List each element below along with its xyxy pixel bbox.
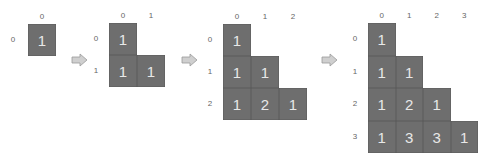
cell-value: 1 [423,96,451,113]
triangle-cell: 3 [423,121,451,154]
right-arrow-icon [321,53,339,67]
cell-value: 2 [251,96,279,113]
row-label: 1 [205,67,215,77]
cell-value: 1 [368,128,396,145]
triangle-cell: 1 [368,23,396,56]
triangle-cell: 1 [368,56,396,89]
triangle-cell: 2 [396,88,424,121]
cell-value: 1 [279,96,307,113]
cell-value: 1 [223,96,251,113]
row-label: 0 [350,34,360,44]
row-label: 2 [350,99,360,109]
column-label: 3 [451,11,479,21]
triangle-cell: 1 [223,88,251,120]
cell-value: 3 [423,128,451,145]
triangle-cell: 3 [396,121,424,154]
triangle-cell: 1 [251,56,279,88]
column-label: 0 [368,11,396,21]
triangle-cell: 1 [368,121,396,154]
right-arrow-icon [71,53,89,67]
column-label: 0 [223,12,251,22]
column-label: 1 [396,11,424,21]
triangle-cell: 1 [223,24,251,56]
row-label: 3 [350,132,360,142]
triangle-cell: 1 [223,56,251,88]
row-label: 0 [91,34,101,44]
triangle-cell: 2 [251,88,279,120]
cell-value: 1 [109,63,137,80]
cell-value: 3 [396,128,424,145]
row-label: 1 [91,66,101,76]
cell-value: 1 [451,128,479,145]
row-label: 2 [205,99,215,109]
triangle-cell: 1 [368,88,396,121]
column-label: 0 [109,11,137,21]
row-label: 0 [8,35,18,45]
column-label: 1 [137,11,165,21]
right-arrow-icon [181,53,199,67]
cell-value: 1 [368,96,396,113]
triangle-cell: 1 [423,88,451,121]
column-label: 1 [251,12,279,22]
column-label: 2 [279,12,307,22]
row-label: 1 [350,67,360,77]
cell-value: 1 [137,63,165,80]
row-label: 0 [205,35,215,45]
cell-value: 1 [223,64,251,81]
triangle-cell: 1 [279,88,307,120]
cell-value: 1 [109,31,137,48]
column-label: 2 [423,11,451,21]
cell-value: 1 [368,31,396,48]
cell-value: 1 [223,32,251,49]
triangle-cell: 1 [137,55,165,87]
triangle-cell: 1 [28,24,56,56]
cell-value: 1 [396,63,424,80]
cell-value: 2 [396,96,424,113]
triangle-cell: 1 [109,23,137,55]
column-label: 0 [28,12,56,22]
cell-value: 1 [251,64,279,81]
triangle-cell: 1 [109,55,137,87]
triangle-cell: 1 [396,56,424,89]
cell-value: 1 [368,63,396,80]
cell-value: 1 [28,32,56,49]
triangle-cell: 1 [451,121,479,154]
